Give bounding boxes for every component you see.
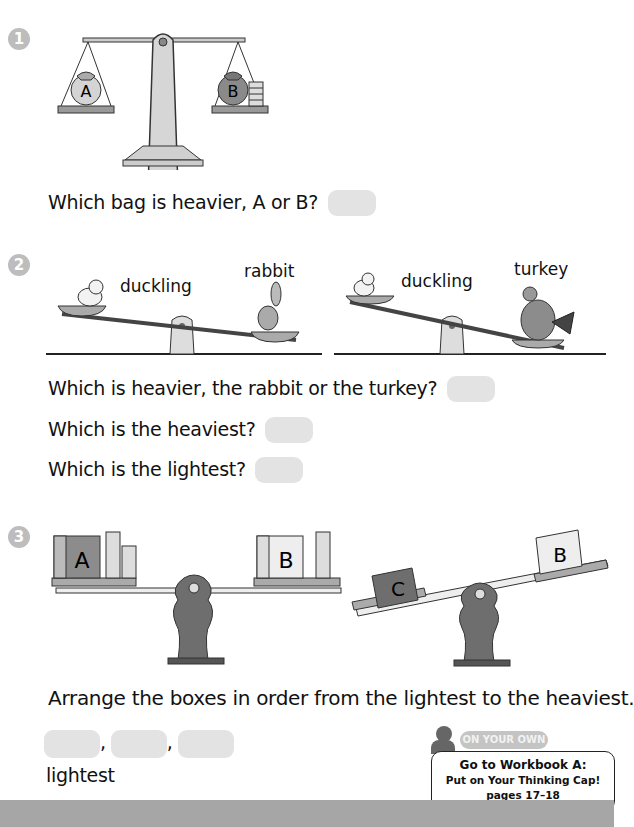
answer-box-3-first[interactable] (44, 730, 100, 758)
seesaw1-right-label: rabbit (244, 261, 294, 281)
question-2a: Which is heavier, the rabbit or the turk… (48, 376, 495, 402)
balance-c-b: C B (350, 528, 614, 668)
question-2b: Which is the heaviest? (48, 417, 313, 443)
box-c-label: C (391, 577, 405, 601)
question-2a-text: Which is heavier, the rabbit or the turk… (48, 377, 437, 399)
question-2b-text: Which is the heaviest? (48, 418, 256, 440)
lightest-label: lightest (46, 764, 115, 786)
seesaw1-left-label: duckling (120, 276, 192, 296)
seesaw2-right-label: turkey (514, 259, 568, 279)
bag-a-label: A (81, 82, 92, 101)
answer-box-2b[interactable] (265, 417, 313, 443)
bag-b-label: B (228, 82, 239, 101)
question-number-3: 3 (8, 526, 30, 548)
box-a-label: A (74, 548, 89, 573)
question-number-2: 2 (8, 254, 30, 276)
answer-box-2a[interactable] (447, 376, 495, 402)
answer-box-1[interactable] (328, 190, 376, 216)
workbook-line2: Put on Your Thinking Cap! (432, 773, 614, 788)
separator: , (167, 731, 173, 753)
question-2c: Which is the lightest? (48, 457, 303, 483)
separator: , (100, 731, 106, 753)
ordering-answers: , , (44, 730, 234, 758)
answer-box-2c[interactable] (255, 457, 303, 483)
question-number-1: 1 (8, 28, 30, 50)
box-b-label: B (278, 548, 293, 573)
question-1-text: Which bag is heavier, A or B? (48, 191, 318, 213)
pan-balance-illustration: A B (55, 28, 275, 170)
balance-a-b: A B (50, 528, 345, 668)
answer-box-3-second[interactable] (111, 730, 167, 758)
question-2c-text: Which is the lightest? (48, 458, 246, 480)
question-1: Which bag is heavier, A or B? (48, 190, 376, 216)
answer-box-3-third[interactable] (178, 730, 234, 758)
seesaw2-left-label: duckling (401, 271, 473, 291)
instruction-3: Arrange the boxes in order from the ligh… (48, 686, 634, 710)
on-your-own-tab: ON YOUR OWN (460, 731, 548, 749)
workbook-line1: Go to Workbook A: (432, 758, 614, 773)
footer-bar (0, 800, 614, 827)
box-b2-label: B (553, 543, 567, 567)
